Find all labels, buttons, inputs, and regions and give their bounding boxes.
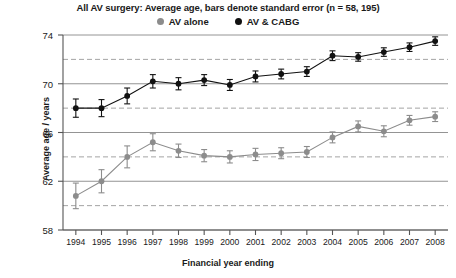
data-point: [253, 152, 259, 158]
data-point: [253, 74, 259, 80]
data-point: [201, 153, 207, 159]
data-point: [407, 117, 413, 123]
data-point: [227, 82, 233, 88]
plot-area: [0, 0, 456, 278]
data-point: [278, 71, 284, 77]
data-point: [124, 154, 130, 160]
series-av-cabg: [73, 37, 438, 117]
data-point: [355, 54, 361, 60]
data-point: [150, 139, 156, 145]
data-point: [330, 53, 336, 59]
data-point: [381, 49, 387, 55]
chart-container: All AV surgery: Average age, bars denote…: [0, 0, 456, 278]
data-point: [201, 77, 207, 83]
data-point: [124, 93, 130, 99]
data-point: [355, 124, 361, 130]
data-point: [73, 193, 79, 199]
data-point: [381, 128, 387, 134]
data-point: [304, 69, 310, 75]
data-point: [176, 148, 182, 154]
series-av-alone: [73, 112, 438, 209]
data-point: [330, 134, 336, 140]
data-point: [176, 81, 182, 87]
data-point: [432, 38, 438, 44]
data-point: [99, 105, 105, 111]
data-point: [227, 154, 233, 160]
data-point: [278, 150, 284, 156]
data-point: [407, 44, 413, 50]
data-point: [99, 178, 105, 184]
data-point: [150, 78, 156, 84]
data-point: [73, 105, 79, 111]
data-point: [304, 149, 310, 155]
data-point: [432, 114, 438, 120]
